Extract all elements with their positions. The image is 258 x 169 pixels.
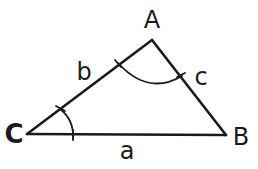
vertex-label-b: B	[233, 123, 249, 151]
side-label-b: b	[76, 58, 91, 86]
side-b	[27, 40, 152, 134]
side-label-a: a	[120, 137, 135, 165]
side-label-c: c	[194, 63, 207, 91]
side-a	[27, 134, 226, 135]
triangle-diagram: A B C a b c	[0, 0, 258, 169]
vertex-label-a: A	[144, 6, 161, 34]
side-c	[152, 40, 226, 135]
vertex-label-c: C	[4, 119, 23, 149]
